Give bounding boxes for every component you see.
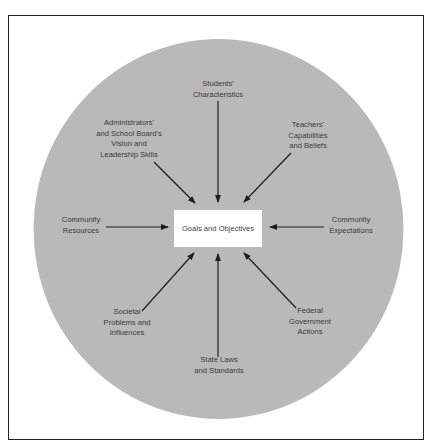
- label-teachers: Teachers' Capabilities and Beliefs: [272, 120, 344, 152]
- label-students: Students' Characteristics: [178, 79, 258, 100]
- label-societal: Societal Problems and Influences: [93, 307, 161, 339]
- label-community-resources: Community Resources: [50, 215, 112, 236]
- label-administrators: Administrators' and School Board's Visio…: [86, 118, 172, 160]
- goals-and-objectives-box: Goals and Objectives: [174, 210, 262, 247]
- label-state: State Laws and Standards: [182, 355, 256, 376]
- label-federal: Federal Government Actions: [275, 306, 345, 338]
- center-label: Goals and Objectives: [182, 224, 254, 233]
- label-community-expectations: Community Expectations: [318, 215, 384, 236]
